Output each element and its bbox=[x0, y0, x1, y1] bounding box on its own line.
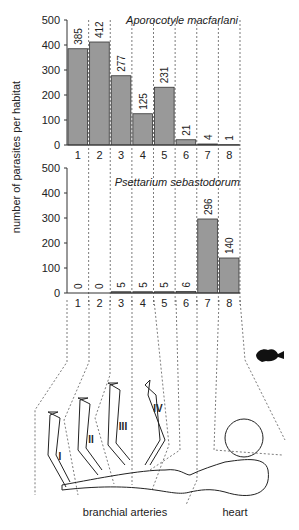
x-tick-label: 2 bbox=[96, 297, 102, 309]
fish-icon bbox=[256, 349, 284, 362]
bar-value-label: 4 bbox=[203, 134, 214, 140]
bar-value-label: 125 bbox=[138, 93, 149, 110]
parasite-habitat-figure: 0100200300400500385141222773125423152164… bbox=[0, 0, 299, 530]
x-tick-label: 2 bbox=[96, 149, 102, 161]
panel-title: Psettarium sebastodorum bbox=[115, 176, 240, 188]
bar-value-label: 6 bbox=[181, 282, 192, 288]
y-tick-label: 500 bbox=[42, 162, 60, 174]
mapping-line bbox=[95, 300, 114, 484]
branchial-arch bbox=[48, 412, 70, 487]
x-tick-label: 5 bbox=[161, 149, 167, 161]
x-tick-label: 3 bbox=[118, 149, 124, 161]
x-tick-label: 8 bbox=[226, 149, 232, 161]
panel-title: Aporocotyle macfarlani bbox=[125, 14, 238, 26]
x-tick-label: 8 bbox=[226, 297, 232, 309]
bar-value-label: 0 bbox=[94, 283, 105, 289]
bar bbox=[133, 114, 153, 145]
heart-label: heart bbox=[222, 506, 247, 518]
bar bbox=[155, 87, 175, 145]
branchial-arch bbox=[145, 380, 165, 465]
x-tick-label: 7 bbox=[205, 297, 211, 309]
bar-value-label: 21 bbox=[181, 124, 192, 136]
y-tick-label: 0 bbox=[54, 139, 60, 151]
y-tick-label: 400 bbox=[42, 187, 60, 199]
bar-value-label: 5 bbox=[159, 282, 170, 288]
x-tick-label: 6 bbox=[183, 149, 189, 161]
x-tick-label: 4 bbox=[140, 297, 146, 309]
bar bbox=[219, 258, 239, 293]
mapping-line bbox=[214, 300, 282, 455]
bar bbox=[68, 49, 88, 145]
atrium-outline bbox=[225, 419, 263, 457]
bar-value-label: 0 bbox=[73, 283, 84, 289]
bar-value-label: 5 bbox=[116, 282, 127, 288]
bar bbox=[90, 42, 110, 145]
y-tick-label: 300 bbox=[42, 64, 60, 76]
x-tick-label: 1 bbox=[75, 149, 81, 161]
bar-value-label: 231 bbox=[159, 66, 170, 83]
x-tick-label: 3 bbox=[118, 297, 124, 309]
arch-label: II bbox=[88, 434, 94, 445]
bar-value-label: 412 bbox=[94, 21, 105, 38]
bar-value-label: 140 bbox=[224, 237, 235, 254]
bar-value-label: 296 bbox=[203, 198, 214, 215]
x-tick-label: 6 bbox=[183, 297, 189, 309]
y-tick-label: 0 bbox=[54, 287, 60, 299]
bar-value-label: 1 bbox=[224, 135, 235, 141]
y-tick-label: 100 bbox=[42, 114, 60, 126]
bar bbox=[198, 219, 218, 293]
bar-value-label: 277 bbox=[116, 55, 127, 72]
y-tick-label: 300 bbox=[42, 212, 60, 224]
mapping-line bbox=[152, 300, 169, 490]
branchial-label: branchial arteries bbox=[83, 506, 168, 518]
x-tick-label: 5 bbox=[161, 297, 167, 309]
y-axis-label: number of parasites per habitat bbox=[10, 81, 22, 233]
bar bbox=[176, 140, 196, 145]
arch-label: IV bbox=[153, 403, 163, 414]
mapping-line bbox=[150, 300, 180, 470]
bar-value-label: 5 bbox=[138, 282, 149, 288]
y-tick-label: 200 bbox=[42, 89, 60, 101]
x-tick-label: 1 bbox=[75, 297, 81, 309]
y-tick-label: 100 bbox=[42, 262, 60, 274]
heart-outline bbox=[62, 460, 268, 496]
bar bbox=[111, 76, 131, 145]
y-tick-label: 500 bbox=[42, 14, 60, 26]
arch-label: III bbox=[119, 421, 128, 432]
bar-value-label: 385 bbox=[73, 28, 84, 45]
mapping-line bbox=[35, 300, 67, 495]
arch-label: I bbox=[59, 451, 62, 462]
y-tick-label: 200 bbox=[42, 237, 60, 249]
y-tick-label: 400 bbox=[42, 39, 60, 51]
x-tick-label: 7 bbox=[205, 149, 211, 161]
x-tick-label: 4 bbox=[140, 149, 146, 161]
